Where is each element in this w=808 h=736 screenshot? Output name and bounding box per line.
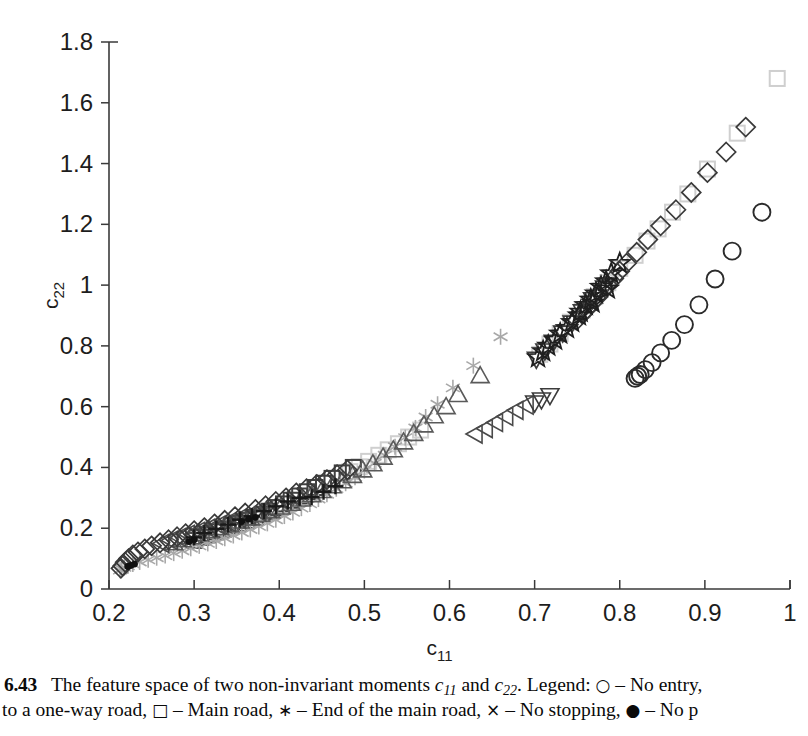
caption-c11: c <box>435 674 444 695</box>
y-axis-title: c22 <box>39 282 67 309</box>
marker-dot <box>238 518 245 525</box>
caption-text-d: – No entry, <box>610 674 702 695</box>
marker-dot <box>124 563 131 570</box>
y-tick-label: 1.4 <box>60 150 93 177</box>
marker-circle <box>676 316 693 333</box>
figure-number: 6.43 <box>4 674 37 695</box>
marker-triangle-left <box>486 413 502 431</box>
asterisk-marker-icon: ∗ <box>278 700 292 720</box>
figure-root: 00.20.40.60.811.21.41.61.80.20.30.40.50.… <box>0 0 808 736</box>
marker-asterisk <box>494 329 508 345</box>
marker-circle <box>663 332 680 349</box>
y-tick-label: 0 <box>80 575 93 602</box>
caption2-text-a: to a one-way road, <box>2 699 152 720</box>
series-square <box>342 71 784 479</box>
y-tick-label: 0.4 <box>60 453 93 480</box>
x-tick-label: 0.9 <box>688 599 721 626</box>
y-tick-label: 1.6 <box>60 89 93 116</box>
marker-diamond <box>717 143 736 162</box>
marker-circle <box>724 243 741 260</box>
marker-dot <box>186 538 193 545</box>
x-tick-label: 0.6 <box>433 599 466 626</box>
y-tick-label: 0.8 <box>60 332 93 359</box>
x-tick-label: 0.5 <box>348 599 381 626</box>
caption2-text-e: – No p <box>640 699 698 720</box>
caption2-text-d: – No stopping, <box>500 699 625 720</box>
marker-triangle-left <box>476 420 492 438</box>
caption-line-1: 6.43The feature space of two non-invaria… <box>0 672 808 697</box>
marker-dot <box>252 514 259 521</box>
x-tick-label: 0.8 <box>603 599 636 626</box>
scatter-plot: 00.20.40.60.811.21.41.61.80.20.30.40.50.… <box>0 0 808 672</box>
caption2-text-b: – Main road, <box>168 699 278 720</box>
caption-c22-sub: 22 <box>503 682 517 697</box>
figure-caption: 6.43The feature space of two non-invaria… <box>0 672 808 722</box>
cross-marker-icon: × <box>486 700 500 720</box>
caption-line-2: to a one-way road, □ – Main road, ∗ – En… <box>0 697 808 722</box>
x-tick-label: 0.3 <box>177 599 210 626</box>
caption-text-c: . Legend: <box>517 674 596 695</box>
caption2-text-c: – End of the main road, <box>292 699 486 720</box>
y-tick-label: 1.2 <box>60 210 93 237</box>
square-marker-icon: □ <box>152 700 168 720</box>
marker-triangle-left <box>497 407 513 425</box>
caption-c11-sub: 11 <box>444 682 457 697</box>
dot-marker-icon: ● <box>626 700 641 720</box>
marker-diamond <box>666 200 685 219</box>
y-tick-label: 0.2 <box>60 514 93 541</box>
x-tick-label: 0.7 <box>518 599 551 626</box>
marker-triangle-left <box>466 425 482 443</box>
marker-circle <box>753 204 770 221</box>
y-tick-label: 1.8 <box>60 28 93 55</box>
x-tick-label: 1 <box>783 599 796 626</box>
marker-layer <box>111 71 784 578</box>
caption-text-b: and <box>457 674 495 695</box>
x-tick-label: 0.2 <box>92 599 125 626</box>
circle-marker-icon: ○ <box>596 675 611 695</box>
caption-c22: c <box>494 674 503 695</box>
marker-circle <box>707 271 724 288</box>
x-tick-label: 0.4 <box>263 599 296 626</box>
marker-circle <box>690 296 707 313</box>
x-axis-title: c11 <box>426 636 452 664</box>
y-tick-label: 1 <box>80 271 93 298</box>
axis-text-layer: 00.20.40.60.811.21.41.61.80.20.30.40.50.… <box>39 28 797 664</box>
caption-text-a: The feature space of two non-invariant m… <box>51 674 435 695</box>
y-tick-label: 0.6 <box>60 393 93 420</box>
marker-diamond <box>736 118 755 137</box>
marker-dot <box>245 516 252 523</box>
series-diamond <box>111 118 755 578</box>
marker-square <box>770 71 785 86</box>
